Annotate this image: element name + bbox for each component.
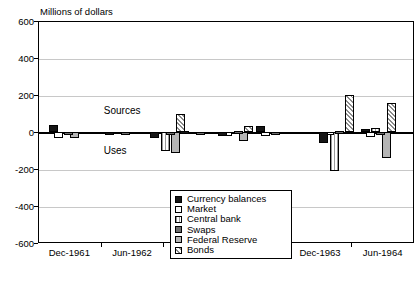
y-axis-title: Millions of dollars xyxy=(40,6,113,17)
y-tick-label: -200 xyxy=(0,164,34,175)
gridline xyxy=(39,170,413,171)
x-tick-label: Jun-1964 xyxy=(363,247,403,258)
y-tick-mark xyxy=(34,169,38,170)
y-tick-mark xyxy=(34,21,38,22)
bar xyxy=(244,126,253,132)
bar xyxy=(105,132,114,135)
x-tick-label: Dec-1963 xyxy=(299,247,340,258)
bar xyxy=(256,126,265,132)
central-bank-swatch-icon xyxy=(175,216,182,223)
bar xyxy=(166,132,175,135)
bar xyxy=(218,132,227,136)
gridline xyxy=(39,59,413,60)
bar xyxy=(261,132,270,136)
x-tick-label: Dec-1961 xyxy=(49,247,90,258)
currency-swatch-icon xyxy=(175,196,182,203)
annotation-sources: Sources xyxy=(104,105,141,116)
y-tick-mark xyxy=(34,206,38,207)
legend-item-label: Bonds xyxy=(187,245,214,255)
market-swatch-icon xyxy=(175,206,182,213)
y-tick-label: 400 xyxy=(0,53,34,64)
y-tick-label: 0 xyxy=(0,127,34,138)
bar xyxy=(64,132,73,135)
y-tick-mark xyxy=(34,58,38,59)
bar xyxy=(150,132,159,138)
bonds-swatch-icon xyxy=(175,247,182,254)
bar xyxy=(376,132,385,135)
y-tick-mark xyxy=(34,243,38,244)
bar xyxy=(121,132,130,135)
bar xyxy=(330,132,339,171)
y-tick-mark xyxy=(34,132,38,133)
bar xyxy=(49,125,58,132)
bar xyxy=(345,95,354,132)
bar xyxy=(366,132,375,137)
legend-item: Bonds xyxy=(175,245,286,255)
bar xyxy=(382,132,391,158)
y-tick-label: 600 xyxy=(0,16,34,27)
y-tick-mark xyxy=(34,95,38,96)
federal-reserve-swatch-icon xyxy=(175,236,182,243)
bar xyxy=(171,132,180,153)
bar xyxy=(54,132,63,138)
bar xyxy=(361,129,370,132)
bar xyxy=(319,132,328,143)
bar xyxy=(180,131,189,134)
bar xyxy=(271,132,280,135)
bar xyxy=(387,103,396,132)
bar xyxy=(234,131,243,134)
chart-legend: Currency balancesMarketCentral bankSwaps… xyxy=(170,190,292,259)
gridline xyxy=(39,96,413,97)
y-tick-label: -600 xyxy=(0,238,34,249)
x-tick-mark xyxy=(101,243,102,247)
x-tick-mark xyxy=(163,243,164,247)
legend-item-label: Central bank xyxy=(187,214,241,224)
x-tick-label: Jun-1962 xyxy=(112,247,152,258)
chart-figure: Millions of dollars 6004002000-200-400-6… xyxy=(0,0,420,297)
bar xyxy=(335,131,344,134)
y-tick-label: 200 xyxy=(0,90,34,101)
swaps-swatch-icon xyxy=(175,226,182,233)
bar xyxy=(176,114,185,132)
y-tick-label: -400 xyxy=(0,201,34,212)
annotation-uses: Uses xyxy=(104,145,127,156)
x-tick-mark xyxy=(351,243,352,247)
bar xyxy=(196,132,205,135)
